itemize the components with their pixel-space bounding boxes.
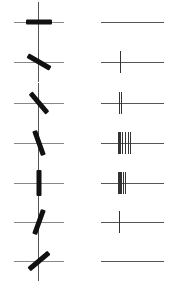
spike-mark (119, 92, 120, 114)
time-baseline (101, 103, 164, 104)
spike-mark (121, 92, 122, 114)
spike-mark (125, 132, 126, 154)
spike-mark (125, 172, 126, 194)
spike-mark (128, 132, 129, 154)
receptive-field-stimulus (14, 123, 64, 163)
receptive-field-stimulus (14, 42, 64, 82)
receptive-field-stimulus (14, 202, 64, 242)
light-bar-stimulus (37, 170, 42, 196)
spike-mark (121, 172, 122, 194)
stimulus-response-row (0, 123, 174, 163)
spike-mark (119, 211, 120, 233)
receptive-field-stimulus (14, 163, 64, 203)
time-baseline (101, 183, 164, 184)
spike-mark (130, 132, 131, 154)
time-baseline (101, 261, 164, 262)
spike-train-response (101, 42, 165, 82)
spike-mark (123, 172, 124, 194)
stimulus-response-row (0, 241, 174, 281)
orientation-tuning-figure (0, 0, 174, 291)
stimulus-response-row (0, 42, 174, 82)
spike-train-response (101, 83, 165, 123)
receptive-field-stimulus (14, 83, 64, 123)
spike-mark (120, 51, 121, 73)
spike-train-response (101, 202, 165, 242)
time-baseline (101, 222, 164, 223)
receptive-field-stimulus (14, 241, 64, 281)
spike-mark (120, 132, 121, 154)
spike-mark (122, 132, 123, 154)
stimulus-response-row (0, 202, 174, 242)
time-baseline (101, 62, 164, 63)
spike-train-response (101, 2, 165, 42)
time-baseline (101, 22, 164, 23)
time-baseline (101, 143, 164, 144)
stimulus-response-row (0, 83, 174, 123)
stimulus-response-row (0, 163, 174, 203)
light-bar-stimulus (26, 20, 52, 25)
receptive-field-stimulus (14, 2, 64, 42)
spike-train-response (101, 163, 165, 203)
stimulus-response-row (0, 2, 174, 42)
spike-train-response (101, 123, 165, 163)
spike-train-response (101, 241, 165, 281)
